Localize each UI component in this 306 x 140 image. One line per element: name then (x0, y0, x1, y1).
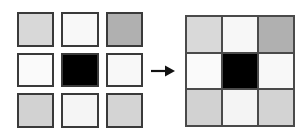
arrow-right-icon (150, 62, 178, 80)
grid-cell-r2-c3 (106, 53, 143, 88)
separated-tile-grid (17, 12, 143, 128)
grid-cell-r3-c3 (106, 93, 143, 128)
grid-cell-r1-c3 (106, 12, 143, 47)
grid-cell-r2-c2 (61, 53, 98, 88)
grid-cell-r3-c2 (223, 90, 257, 125)
grid-cell-r3-c1 (187, 90, 221, 125)
grid-cell-r1-c2 (223, 17, 257, 52)
grid-cell-r2-c1 (187, 54, 221, 89)
grid-cell-r1-c3 (259, 17, 293, 52)
grid-cell-r1-c1 (17, 12, 54, 47)
grid-cell-r3-c1 (17, 93, 54, 128)
contiguous-tile-grid (185, 15, 295, 127)
grid-cell-r2-c2 (223, 54, 257, 89)
grid-cell-r2-c3 (259, 54, 293, 89)
grid-cell-r3-c3 (259, 90, 293, 125)
figure-root (0, 0, 306, 140)
grid-cell-r1-c2 (61, 12, 98, 47)
grid-cell-r2-c1 (17, 53, 54, 88)
grid-cell-r1-c1 (187, 17, 221, 52)
arrow-right-glyph (150, 62, 178, 80)
grid-cell-r3-c2 (61, 93, 98, 128)
